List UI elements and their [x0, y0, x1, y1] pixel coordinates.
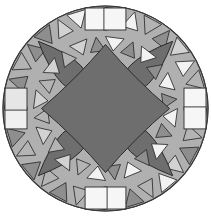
square-left-b: [5, 88, 27, 110]
square-top-b: [104, 8, 126, 30]
mosaic-figure: [0, 0, 211, 217]
mosaic-canvas: [0, 0, 211, 217]
square-right-b: [184, 107, 206, 129]
square-bottom-b: [85, 187, 107, 209]
